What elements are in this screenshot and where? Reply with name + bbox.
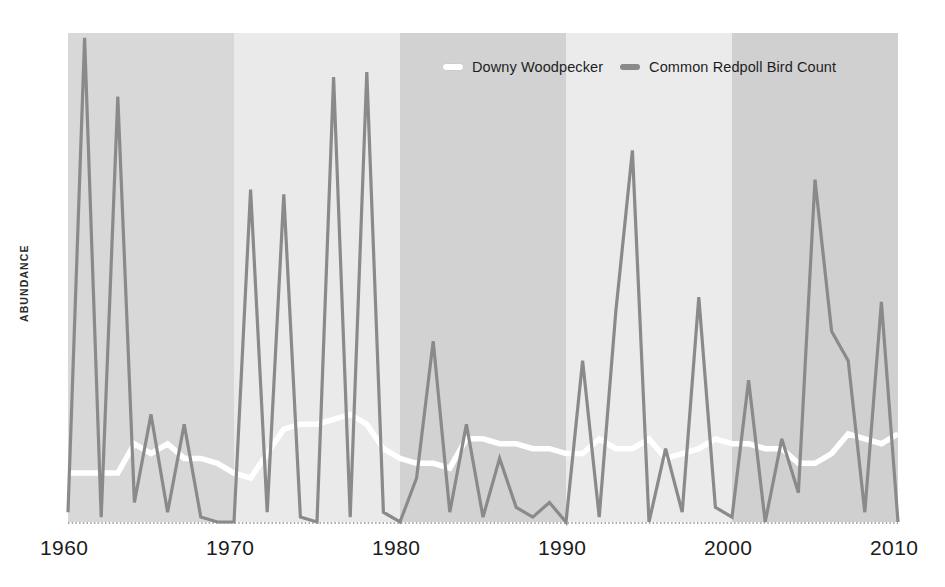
x-tick-1970: 1970	[206, 536, 254, 560]
legend-item-common-redpoll[interactable]: Common Redpoll Bird Count	[620, 59, 836, 75]
legend-label-common-redpoll: Common Redpoll Bird Count	[649, 59, 836, 75]
y-axis-label: ABUNDANCE	[16, 228, 32, 338]
bird-abundance-line-chart	[0, 0, 945, 587]
legend-swatch-icon-downy-woodpecker	[443, 64, 463, 70]
legend-swatch-icon-common-redpoll	[620, 64, 640, 70]
legend-label-downy-woodpecker: Downy Woodpecker	[472, 59, 603, 75]
x-tick-2000: 2000	[704, 536, 752, 560]
chart-legend: Downy Woodpecker Common Redpoll Bird Cou…	[443, 56, 836, 78]
x-tick-1980: 1980	[372, 536, 420, 560]
x-tick-1960: 1960	[40, 536, 88, 560]
x-tick-2010: 2010	[870, 536, 918, 560]
x-tick-1990: 1990	[538, 536, 586, 560]
chart-figure: ABUNDANCE 196019701980199020002010 Downy…	[0, 0, 945, 587]
legend-item-downy-woodpecker[interactable]: Downy Woodpecker	[443, 59, 603, 75]
